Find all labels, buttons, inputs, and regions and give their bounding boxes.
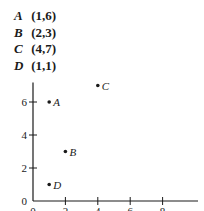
point-c: C [96,80,110,92]
point-marker [47,183,51,187]
y-tick-label: 0 [22,195,28,207]
y-tick-label: 6 [22,96,28,108]
y-tick-label: 4 [22,129,28,141]
point-d: D [47,179,61,191]
point-a: A [47,96,60,108]
point-label: C [102,80,110,92]
point-label: B [69,146,76,158]
point-label: D [52,179,61,191]
x-tick-label: 4 [95,205,101,211]
scatter-plot: 024602468 ABCD [0,0,204,211]
x-tick-label: 2 [63,205,69,211]
x-tick-label: 6 [127,205,133,211]
point-b: B [64,146,77,158]
x-tick-label: 0 [30,205,36,211]
point-marker [47,100,51,104]
data-points: ABCD [47,80,109,191]
point-marker [64,150,68,154]
point-marker [96,84,100,88]
y-tick-label: 2 [22,162,28,174]
point-label: A [52,96,60,108]
x-tick-label: 8 [160,205,166,211]
